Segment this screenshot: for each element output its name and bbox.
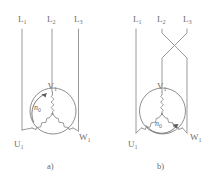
panel-b-winding-v	[161, 92, 164, 114]
panel-a-terminal-lead-u1	[22, 128, 32, 130]
panel-a-terminal-label-u1: U1	[14, 139, 24, 150]
panel-b-conductor-l2-crossed	[162, 29, 187, 133]
panel-b-terminal-label-v1: V1	[157, 81, 167, 92]
panel-b-caption: b)	[157, 161, 164, 171]
panel-a-terminal-label-v1: V1	[48, 81, 58, 92]
panel-b-conductor-l3-crossed	[162, 29, 187, 92]
three-phase-motor-reversal-diagram: L1 L2 L3 n0 V1	[0, 0, 216, 180]
panel-b-supply-label-l3: L3	[183, 14, 192, 25]
panel-b-terminal-label-u1: U1	[128, 139, 138, 150]
panel-b-neutral-point	[161, 113, 163, 115]
panel-a: L1 L2 L3 n0 V1	[14, 14, 91, 171]
panel-a-neutral-point	[51, 113, 53, 115]
panel-a-supply-label-l3: L3	[74, 14, 83, 25]
panel-a-rotation-label: n0	[34, 103, 41, 113]
panel-b: L1 L2 L3 n0 V1 U1 W1	[128, 14, 202, 171]
figure-root: L1 L2 L3 n0 V1	[0, 0, 216, 180]
panel-a-supply-label-l2: L2	[47, 14, 56, 25]
panel-a-terminal-label-w1: W1	[79, 132, 91, 143]
panel-a-winding-u	[32, 114, 53, 130]
panel-b-terminal-label-w1: W1	[190, 132, 202, 143]
panel-b-terminal-lead-w1	[183, 128, 188, 133]
panel-a-terminal-lead-w1	[73, 128, 79, 131]
panel-a-supply-label-l1: L1	[18, 14, 27, 25]
panel-b-supply-label-l2: L2	[157, 14, 166, 25]
panel-a-caption: a)	[47, 161, 54, 171]
panel-a-winding-v	[51, 92, 54, 114]
panel-b-supply-label-l1: L1	[133, 14, 142, 25]
panel-b-terminal-lead-u1	[136, 128, 142, 133]
panel-b-rotation-label: n0	[155, 119, 162, 129]
